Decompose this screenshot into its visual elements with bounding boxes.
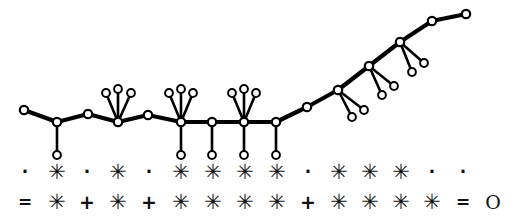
- character-state-row-2: =✳+✳+✳✳✳✳+✳✳✳✳=O: [0, 189, 515, 215]
- backbone-edge: [369, 42, 400, 66]
- leaf-node-11: [252, 89, 260, 97]
- leaf-node-3: [127, 89, 135, 97]
- backbone-node-b10: [334, 86, 342, 94]
- symbol-row2-col1-eq: =: [18, 194, 32, 211]
- symbol-row1-col7-star: ✳: [204, 162, 222, 183]
- symbol-row1-col8-star: ✳: [236, 162, 254, 183]
- backbone-node-b11: [365, 62, 373, 70]
- figure-root: ·✳·✳·✳✳✳✳·✳✳✳·· =✳+✳+✳✳✳✳+✳✳✳✳=O: [0, 0, 515, 216]
- leaf-node-10: [240, 85, 248, 93]
- symbol-row1-col1-dot: ·: [22, 164, 28, 181]
- leaf-node-2: [114, 85, 122, 93]
- symbol-row1-col3-dot: ·: [84, 164, 90, 181]
- symbol-row2-col5-plus: +: [141, 193, 157, 212]
- backbone-node-b5: [177, 118, 185, 126]
- symbol-row1-col9-star: ✳: [268, 162, 286, 183]
- symbol-row2-col15-eq: =: [456, 194, 470, 211]
- backbone-edge: [307, 90, 338, 107]
- backbone-node-b4: [144, 111, 152, 119]
- backbone-node-b9: [303, 103, 311, 111]
- symbol-row1-col5-dot: ·: [146, 164, 152, 181]
- backbone-node-b6: [208, 118, 216, 126]
- leaf-node-8: [208, 151, 216, 159]
- leaf-node-14: [348, 113, 356, 121]
- leaf-node-6: [189, 89, 197, 97]
- backbone-node-b1: [53, 118, 61, 126]
- leaf-node-5: [177, 85, 185, 93]
- leaf-node-13: [272, 151, 280, 159]
- leaf-edge-group: [57, 42, 424, 155]
- symbol-row1-col4-star: ✳: [109, 162, 127, 183]
- backbone-node-b12: [396, 38, 404, 46]
- symbol-row2-col14-star: ✳: [423, 192, 441, 213]
- leaf-node-17: [390, 82, 398, 90]
- symbol-row2-col2-star: ✳: [48, 192, 66, 213]
- leaf-node-9: [228, 89, 236, 97]
- leaf-node-7: [177, 151, 185, 159]
- leaf-node-15: [360, 106, 368, 114]
- symbol-row2-col10-plus: +: [300, 193, 316, 212]
- backbone-node-b0: [20, 106, 28, 114]
- symbol-row1-col6-star: ✳: [172, 162, 190, 183]
- leaf-node-18: [408, 68, 416, 76]
- symbol-row2-col6-star: ✳: [172, 192, 190, 213]
- leaf-node-12: [240, 151, 248, 159]
- symbol-row1-col2-star: ✳: [48, 162, 66, 183]
- leaf-node-1: [102, 89, 110, 97]
- symbol-row2-col3-plus: +: [79, 193, 95, 212]
- symbol-row1-col11-star: ✳: [330, 162, 348, 183]
- leaf-node-4: [165, 89, 173, 97]
- character-state-row-1: ·✳·✳·✳✳✳✳·✳✳✳··: [0, 159, 515, 185]
- symbol-row2-col7-star: ✳: [204, 192, 222, 213]
- backbone-edge: [400, 21, 432, 42]
- symbol-row2-col13-star: ✳: [392, 192, 410, 213]
- backbone-node-b14: [462, 10, 470, 18]
- symbol-row2-col12-star: ✳: [361, 192, 379, 213]
- symbol-row1-col12-star: ✳: [361, 162, 379, 183]
- symbol-row2-col16-oh: O: [485, 193, 501, 212]
- backbone-node-b3: [114, 118, 122, 126]
- leaf-node-16: [378, 91, 386, 99]
- symbol-row1-col14-dot: ·: [429, 164, 435, 181]
- symbol-row1-col15-dot: ·: [460, 164, 466, 181]
- leaf-node-19: [420, 59, 428, 67]
- backbone-node-b8: [272, 118, 280, 126]
- symbol-row2-col8-star: ✳: [236, 192, 254, 213]
- symbol-row1-col13-star: ✳: [392, 162, 410, 183]
- backbone-edge: [338, 66, 369, 90]
- symbol-row2-col4-star: ✳: [109, 192, 127, 213]
- symbol-row2-col11-star: ✳: [330, 192, 348, 213]
- backbone-node-b7: [240, 118, 248, 126]
- backbone-node-b2: [84, 110, 92, 118]
- symbol-row1-col10-dot: ·: [305, 164, 311, 181]
- backbone-node-b13: [428, 17, 436, 25]
- symbol-row2-col9-star: ✳: [268, 192, 286, 213]
- leaf-node-0: [53, 151, 61, 159]
